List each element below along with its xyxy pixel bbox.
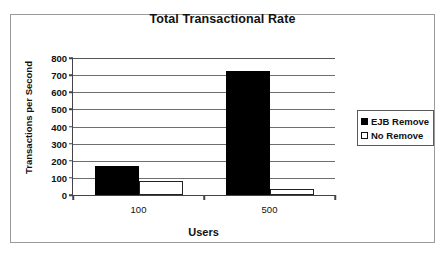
x-axis-title: Users (72, 226, 335, 238)
x-tick-mark (334, 195, 336, 200)
bar-no-remove-500 (270, 189, 314, 195)
legend-swatch-icon (361, 132, 368, 139)
chart-legend: EJB RemoveNo Remove (357, 110, 434, 146)
x-tick-mark (72, 195, 74, 200)
bar-ejb-remove-500 (226, 71, 270, 195)
y-tick-label: 700 (51, 70, 67, 81)
y-tick-mark (69, 160, 73, 162)
y-axis-title: Transactions per Second (23, 43, 34, 193)
bar-ejb-remove-100 (95, 166, 139, 195)
legend-label: EJB Remove (371, 116, 429, 127)
bars-layer (73, 58, 335, 195)
y-tick-label: 100 (51, 172, 67, 183)
legend-item: EJB Remove (361, 114, 430, 128)
legend-swatch-icon (361, 118, 368, 125)
legend-label: No Remove (371, 130, 423, 141)
legend-item: No Remove (361, 128, 430, 142)
bar-no-remove-100 (139, 181, 183, 195)
y-tick-mark (69, 109, 73, 111)
y-tick-mark (69, 57, 73, 59)
y-tick-label: 400 (51, 121, 67, 132)
y-tick-mark (69, 177, 73, 179)
plot-area: 0100200300400500600700800100500 (72, 58, 335, 196)
y-tick-mark (69, 143, 73, 145)
y-tick-label: 500 (51, 104, 67, 115)
y-tick-label: 800 (51, 53, 67, 64)
x-tick-mark (203, 195, 205, 200)
y-tick-label: 300 (51, 138, 67, 149)
y-tick-label: 200 (51, 155, 67, 166)
y-tick-mark (69, 74, 73, 76)
chart-title: Total Transactional Rate (0, 12, 445, 26)
x-tick-label: 100 (131, 204, 147, 215)
x-tick-label: 500 (262, 204, 278, 215)
y-tick-mark (69, 126, 73, 128)
y-tick-label: 0 (62, 190, 67, 201)
y-tick-label: 600 (51, 87, 67, 98)
y-tick-mark (69, 92, 73, 94)
